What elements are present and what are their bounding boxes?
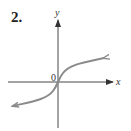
origin-label: 0 xyxy=(51,72,56,83)
graph: x y 0 xyxy=(0,0,131,131)
y-axis-label: y xyxy=(54,7,60,18)
x-axis-label: x xyxy=(115,76,121,87)
